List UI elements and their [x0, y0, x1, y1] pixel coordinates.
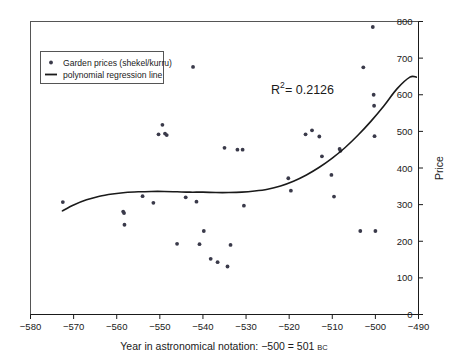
- scatter-plot-figure: −580−570−560−550−540−530−520−510−500−490…: [0, 0, 454, 363]
- data-point: [373, 229, 377, 233]
- data-point: [209, 257, 213, 261]
- x-tick-label: −550: [149, 321, 170, 332]
- x-tick-label: −520: [278, 321, 299, 332]
- data-point: [317, 135, 321, 139]
- data-point: [286, 176, 290, 180]
- data-point: [361, 65, 365, 69]
- chart-canvas: −580−570−560−550−540−530−520−510−500−490…: [0, 0, 454, 363]
- data-point: [191, 65, 195, 69]
- y-tick-label: 300: [397, 199, 413, 210]
- data-point: [229, 243, 233, 247]
- data-point: [371, 25, 375, 29]
- x-tick-label: −560: [106, 321, 127, 332]
- data-point: [151, 201, 155, 205]
- x-tick-label: −540: [192, 321, 213, 332]
- data-point: [241, 148, 245, 152]
- data-point: [161, 123, 165, 127]
- data-point: [195, 200, 199, 204]
- data-point: [372, 93, 376, 97]
- data-point: [289, 189, 293, 193]
- data-point: [202, 229, 206, 233]
- y-tick-label: 500: [397, 126, 413, 137]
- data-point: [372, 104, 376, 108]
- x-tick-label: −500: [365, 321, 386, 332]
- data-point: [330, 173, 334, 177]
- data-point: [122, 211, 126, 215]
- y-tick-label: 800: [397, 16, 413, 27]
- data-point: [320, 154, 324, 158]
- data-point: [310, 128, 314, 132]
- y-axis-title-text: Price: [433, 156, 445, 180]
- data-point: [198, 242, 202, 246]
- data-point: [123, 223, 127, 227]
- x-tick-label: −490: [408, 321, 429, 332]
- legend: Garden prices (shekel/kurru) polynomial …: [41, 52, 173, 84]
- data-point: [242, 204, 246, 208]
- x-axis-title-main: Year in astronomical notation: −500 = 50…: [120, 340, 317, 352]
- y-tick-label: 600: [397, 89, 413, 100]
- data-point: [184, 195, 188, 199]
- x-axis-title-era: BC: [317, 343, 328, 352]
- data-point: [141, 194, 145, 198]
- y-tick-label: 700: [397, 53, 413, 64]
- y-tick-label: 0: [407, 309, 412, 320]
- data-point: [175, 242, 179, 246]
- y-tick-label: 200: [397, 236, 413, 247]
- data-point: [226, 265, 230, 269]
- y-axis-title: Price: [433, 156, 445, 180]
- data-point: [358, 229, 362, 233]
- r-squared-base: R: [271, 83, 280, 97]
- data-point: [61, 200, 65, 204]
- legend-label-regression-line: polynomial regression line: [63, 70, 163, 80]
- r-squared-value: = 0.2126: [285, 83, 334, 97]
- y-tick-label: 400: [397, 163, 413, 174]
- legend-label-garden-prices: Garden prices (shekel/kurru): [63, 58, 172, 68]
- data-point: [157, 132, 161, 136]
- x-tick-label: −580: [20, 321, 41, 332]
- data-point: [304, 132, 308, 136]
- data-point: [216, 260, 220, 264]
- data-point: [373, 134, 377, 138]
- x-tick-label: −570: [63, 321, 84, 332]
- x-axis-title-text: Year in astronomical notation: −500 = 50…: [120, 340, 328, 352]
- data-point: [165, 133, 169, 137]
- data-point: [332, 195, 336, 199]
- x-axis-title: Year in astronomical notation: −500 = 50…: [120, 340, 328, 352]
- x-tick-label: −530: [235, 321, 256, 332]
- y-tick-label: 100: [397, 272, 413, 283]
- legend-point-marker-icon: [49, 61, 53, 65]
- x-tick-label: −510: [322, 321, 343, 332]
- data-point: [223, 146, 227, 150]
- data-point: [236, 148, 240, 152]
